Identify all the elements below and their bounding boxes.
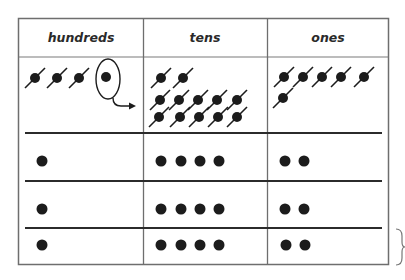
ones-dot xyxy=(300,240,311,251)
ones-dot xyxy=(299,204,310,215)
result-row-1 xyxy=(37,156,310,167)
header-hundreds: hundreds xyxy=(48,30,115,45)
ones-dot xyxy=(280,156,291,167)
regroup-arrow-icon xyxy=(113,98,136,110)
tens-dot xyxy=(195,240,206,251)
hundreds-crossed-dots xyxy=(25,68,89,88)
tens-dot xyxy=(176,204,187,215)
tens-dot xyxy=(156,156,167,167)
header-ones: ones xyxy=(311,30,344,45)
ones-dot xyxy=(281,240,292,251)
tens-dot xyxy=(214,240,225,251)
header-tens: tens xyxy=(190,30,221,45)
tens-dot xyxy=(214,204,225,215)
ones-dot xyxy=(280,204,291,215)
place-value-chart: hundreds tens ones xyxy=(0,0,405,280)
tens-dot xyxy=(156,240,167,251)
ones-crossed-dots xyxy=(273,67,374,108)
ones-dot xyxy=(299,156,310,167)
tens-dot xyxy=(156,204,167,215)
tens-dot xyxy=(176,156,187,167)
hundreds-dot xyxy=(37,204,48,215)
result-row-3 xyxy=(37,240,311,251)
circled-hundred xyxy=(96,59,120,99)
tens-dot xyxy=(176,240,187,251)
result-row-2 xyxy=(37,204,310,215)
tens-dot xyxy=(214,156,225,167)
tens-dot xyxy=(195,204,206,215)
right-brace-icon xyxy=(396,229,405,265)
tens-dot xyxy=(195,156,206,167)
tens-crossed-dots xyxy=(149,68,247,127)
hundreds-dot xyxy=(37,156,48,167)
hundreds-dot xyxy=(37,240,48,251)
